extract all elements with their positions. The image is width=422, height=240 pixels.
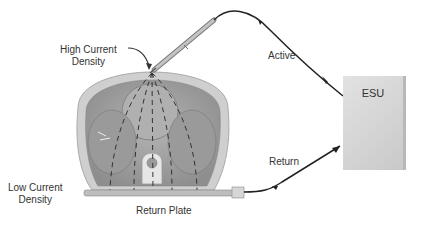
active-label: Active [268,50,295,62]
esu-label: ESU [343,87,403,99]
active-electrode-icon [150,20,214,73]
return-wire [244,146,340,192]
return-plate-connector [232,187,244,198]
esu-box: ESU [343,76,406,170]
return-label: Return [269,156,299,168]
low-current-label: Low Current Density [8,182,62,206]
high-current-arrow [128,48,149,66]
high-current-label: High Current Density [60,44,117,68]
return-plate-label: Return Plate [136,205,192,217]
return-plate [84,190,234,196]
